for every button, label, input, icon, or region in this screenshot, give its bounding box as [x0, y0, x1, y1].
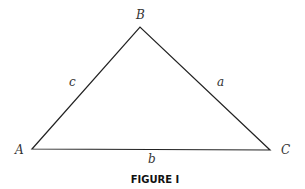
side-label-a: a	[217, 75, 224, 89]
side-label-b: b	[148, 152, 156, 166]
triangle-abc	[32, 27, 270, 150]
vertex-label-c: C	[281, 143, 290, 157]
side-label-c: c	[69, 75, 76, 89]
vertex-label-a: A	[14, 143, 24, 157]
vertex-label-b: B	[135, 8, 145, 22]
triangle-figure: B A C c a b FIGURE I	[0, 0, 305, 189]
figure-caption: FIGURE I	[131, 174, 180, 185]
